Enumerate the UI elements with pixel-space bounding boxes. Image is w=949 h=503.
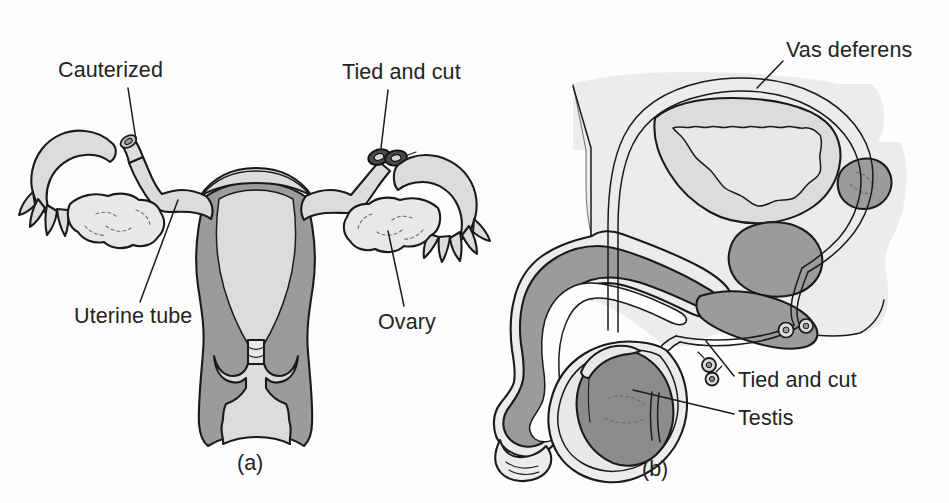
label-testis: Testis (738, 408, 794, 430)
label-tied-and-cut-a: Tied and cut (342, 62, 461, 84)
panel-b-male-tract (494, 61, 907, 482)
panel-caption-a: (a) (237, 453, 263, 475)
leader-cauterized (128, 88, 136, 140)
label-tied-and-cut-b: Tied and cut (738, 370, 857, 392)
seminal-vesicle (838, 159, 892, 209)
uterus (196, 168, 315, 446)
figure-root: .ol { stroke: #1a1a1a; stroke-width: 2.1… (0, 0, 949, 503)
ovary-left (68, 194, 164, 248)
label-uterine-tube: Uterine tube (74, 306, 192, 328)
prostate (729, 222, 823, 297)
label-cauterized: Cauterized (58, 60, 163, 82)
label-ovary: Ovary (378, 312, 436, 334)
right-tube-and-ovary (301, 146, 490, 262)
panel-caption-b: (b) (642, 459, 668, 481)
leader-tied-and-cut-a (381, 90, 388, 148)
panel-a-female-tract (19, 88, 490, 446)
label-vas-deferens: Vas deferens (786, 40, 912, 62)
